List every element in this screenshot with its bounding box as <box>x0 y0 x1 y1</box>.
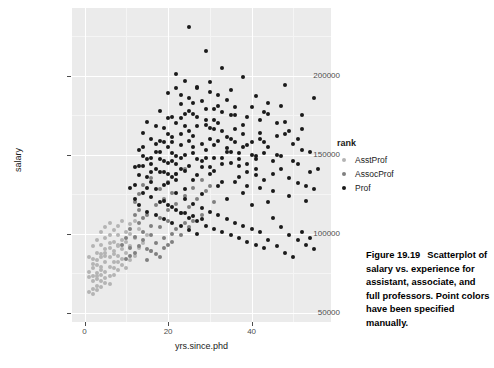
data-point <box>128 186 132 190</box>
data-point <box>170 140 174 144</box>
data-point <box>166 243 170 247</box>
caption-number: Figure 19.19 <box>366 250 420 260</box>
data-point <box>283 132 287 136</box>
data-point <box>112 228 116 232</box>
data-point <box>195 86 199 90</box>
data-point <box>166 208 170 212</box>
data-point <box>220 66 224 70</box>
data-point <box>187 129 191 133</box>
data-point <box>287 129 291 133</box>
data-point <box>141 191 145 195</box>
data-point <box>204 148 208 152</box>
data-point <box>183 112 187 116</box>
data-point <box>216 184 220 188</box>
gridline-minor-horizontal <box>72 36 331 37</box>
data-point <box>225 217 229 221</box>
data-point <box>220 129 224 133</box>
data-point <box>103 281 107 285</box>
gridline-minor-horizontal <box>72 115 331 116</box>
data-point <box>195 173 199 177</box>
data-point <box>112 273 116 277</box>
data-point <box>254 157 258 161</box>
data-point <box>166 181 170 185</box>
data-point <box>195 115 199 119</box>
x-tick-label: 20 <box>148 328 188 336</box>
data-point <box>179 211 183 215</box>
data-point <box>216 93 220 97</box>
data-point <box>137 208 141 212</box>
legend-items: AsstProfAssocProfProf <box>337 153 407 195</box>
data-point <box>133 183 137 187</box>
data-point <box>229 137 233 141</box>
data-point <box>216 213 220 217</box>
data-point <box>200 159 204 163</box>
data-point <box>200 213 204 217</box>
legend-item[interactable]: AsstProf <box>337 153 407 167</box>
data-point <box>258 131 262 135</box>
data-point <box>312 247 316 251</box>
data-point <box>212 156 216 160</box>
data-point <box>296 162 300 166</box>
data-point <box>108 265 112 269</box>
x-tick-mark <box>252 322 253 326</box>
data-point <box>266 145 270 149</box>
data-point <box>141 216 145 220</box>
data-point <box>149 224 153 228</box>
data-point <box>271 159 275 163</box>
data-point <box>308 170 312 174</box>
data-point <box>91 292 95 296</box>
data-point <box>296 137 300 141</box>
data-point <box>149 170 153 174</box>
data-point <box>245 162 249 166</box>
data-point <box>300 127 304 131</box>
data-point <box>237 236 241 240</box>
legend-item[interactable]: Prof <box>337 181 407 195</box>
data-point <box>287 194 291 198</box>
data-point <box>241 145 245 149</box>
data-point <box>237 157 241 161</box>
data-point <box>195 197 199 201</box>
data-point <box>233 140 237 144</box>
data-point <box>225 135 229 139</box>
data-point <box>291 159 295 163</box>
y-tick-label: 200000 <box>276 72 340 80</box>
data-point <box>254 173 258 177</box>
data-point <box>241 224 245 228</box>
data-point <box>212 107 216 111</box>
data-point <box>133 235 137 239</box>
data-point <box>212 169 216 173</box>
data-point <box>179 102 183 106</box>
data-point <box>204 189 208 193</box>
data-point <box>266 200 270 204</box>
data-point <box>304 184 308 188</box>
data-point <box>170 221 174 225</box>
data-point <box>99 285 103 289</box>
data-point <box>233 180 237 184</box>
data-point <box>233 105 237 109</box>
gridline-minor-vertical <box>293 8 294 322</box>
data-point <box>179 224 183 228</box>
data-point <box>183 187 187 191</box>
data-point <box>275 134 279 138</box>
data-point <box>262 178 266 182</box>
data-point <box>141 145 145 149</box>
data-point <box>145 120 149 124</box>
data-point <box>174 154 178 158</box>
data-point <box>271 216 275 220</box>
data-point <box>154 142 158 146</box>
data-point <box>212 143 216 147</box>
data-point <box>154 241 158 245</box>
data-point <box>128 258 132 262</box>
data-point <box>245 115 249 119</box>
data-point <box>204 224 208 228</box>
data-point <box>149 156 153 160</box>
data-point <box>250 105 254 109</box>
data-point <box>291 142 295 146</box>
data-point <box>191 214 195 218</box>
data-point <box>204 118 208 122</box>
data-point <box>108 282 112 286</box>
data-point <box>187 228 191 232</box>
legend-item[interactable]: AssocProf <box>337 167 407 181</box>
x-tick-label: 40 <box>232 328 272 336</box>
data-point <box>95 238 99 242</box>
